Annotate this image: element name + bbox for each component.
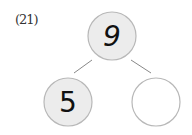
connector-right [131, 60, 151, 73]
whole-circle: 9 [88, 12, 136, 60]
part-left-value: 5 [59, 86, 77, 119]
number-bond-diagram: 9 5 [0, 0, 192, 135]
connector-left [74, 60, 92, 73]
part-circle-left: 5 [44, 78, 92, 126]
whole-value: 9 [103, 20, 121, 53]
part-circle-right[interactable] [132, 78, 180, 126]
